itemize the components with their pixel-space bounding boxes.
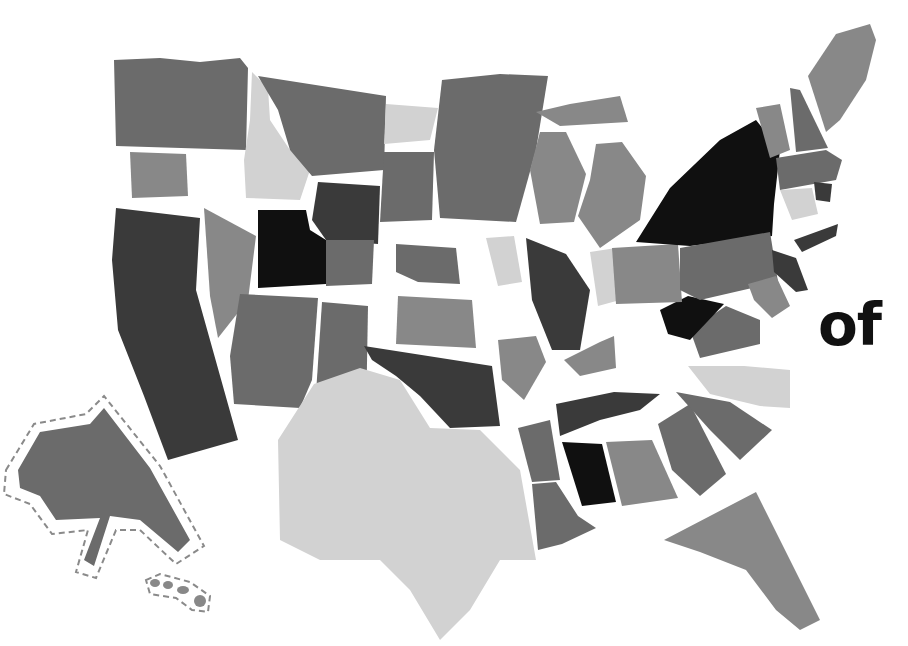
hawaii-island-1 bbox=[163, 581, 173, 589]
state-iowa bbox=[486, 236, 522, 286]
hawaii-island-3 bbox=[194, 595, 206, 607]
state-massachusetts bbox=[776, 150, 842, 190]
us-states-collage-map bbox=[0, 0, 908, 646]
state-colorado bbox=[326, 240, 374, 286]
state-arizona bbox=[230, 294, 318, 408]
hawaii-island-0 bbox=[150, 579, 160, 587]
state-florida bbox=[664, 492, 820, 630]
state-michigan bbox=[578, 142, 646, 248]
state-nebraska bbox=[396, 244, 460, 284]
state-arkansas bbox=[498, 336, 546, 400]
state-maryland bbox=[748, 276, 790, 318]
state-kansas bbox=[396, 296, 476, 348]
state-washington bbox=[114, 58, 248, 150]
state-rhode-island bbox=[814, 182, 832, 202]
state-upper-michigan bbox=[536, 96, 628, 126]
hawaii-island-2 bbox=[177, 586, 189, 594]
state-wisconsin bbox=[530, 132, 586, 224]
state-south-dakota bbox=[380, 152, 434, 222]
state-tennessee bbox=[556, 392, 660, 436]
state-alabama bbox=[562, 442, 616, 506]
state-delaware bbox=[794, 224, 838, 252]
hawaii-pieces bbox=[146, 574, 210, 612]
state-maine bbox=[808, 24, 876, 132]
state-connecticut bbox=[780, 188, 818, 220]
state-north-dakota bbox=[384, 104, 438, 144]
state-minnesota bbox=[434, 74, 548, 222]
caption-word-of: of bbox=[818, 296, 881, 354]
contiguous-states-layer bbox=[112, 24, 876, 640]
state-missouri bbox=[526, 238, 590, 350]
state-oregon bbox=[130, 152, 188, 198]
state-mississippi bbox=[518, 420, 560, 482]
state-illinois bbox=[612, 244, 682, 304]
state-wyoming bbox=[312, 182, 380, 244]
state-pennsylvania bbox=[636, 120, 780, 246]
